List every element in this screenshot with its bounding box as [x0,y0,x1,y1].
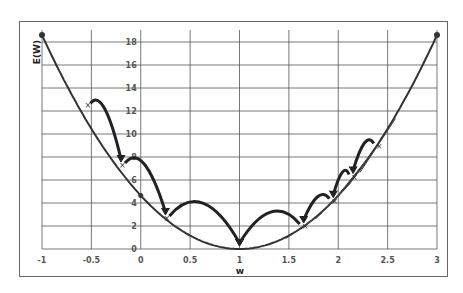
svg-text:10: 10 [126,130,138,139]
svg-text:×: × [376,142,383,151]
svg-text:2: 2 [335,256,341,265]
svg-text:14: 14 [126,84,138,93]
svg-text:18: 18 [126,38,138,47]
svg-text:1.5: 1.5 [282,256,297,265]
y-axis-label: E(W) [32,40,42,64]
gradient-descent-chart: -1-0.500.511.522.53024681012141618 w E(W… [0,0,463,293]
svg-text:4: 4 [131,199,137,208]
svg-text:2.5: 2.5 [381,256,396,265]
svg-text:16: 16 [126,61,138,70]
svg-text:×: × [119,161,126,170]
svg-text:2: 2 [131,222,137,231]
svg-text:0.5: 0.5 [183,256,198,265]
svg-text:×: × [163,214,170,223]
chart-frame [20,22,448,277]
svg-text:0: 0 [138,256,144,265]
svg-text:-1: -1 [38,256,47,265]
svg-text:12: 12 [126,107,137,116]
svg-text:0: 0 [131,245,137,254]
svg-text:1: 1 [237,256,243,265]
svg-text:3: 3 [434,256,440,265]
svg-text:×: × [331,197,338,206]
svg-text:×: × [351,173,358,182]
svg-text:×: × [84,101,91,110]
svg-text:×: × [302,222,309,231]
svg-text:6: 6 [131,176,137,185]
svg-text:-0.5: -0.5 [83,256,101,265]
x-axis-label: w [236,266,244,276]
